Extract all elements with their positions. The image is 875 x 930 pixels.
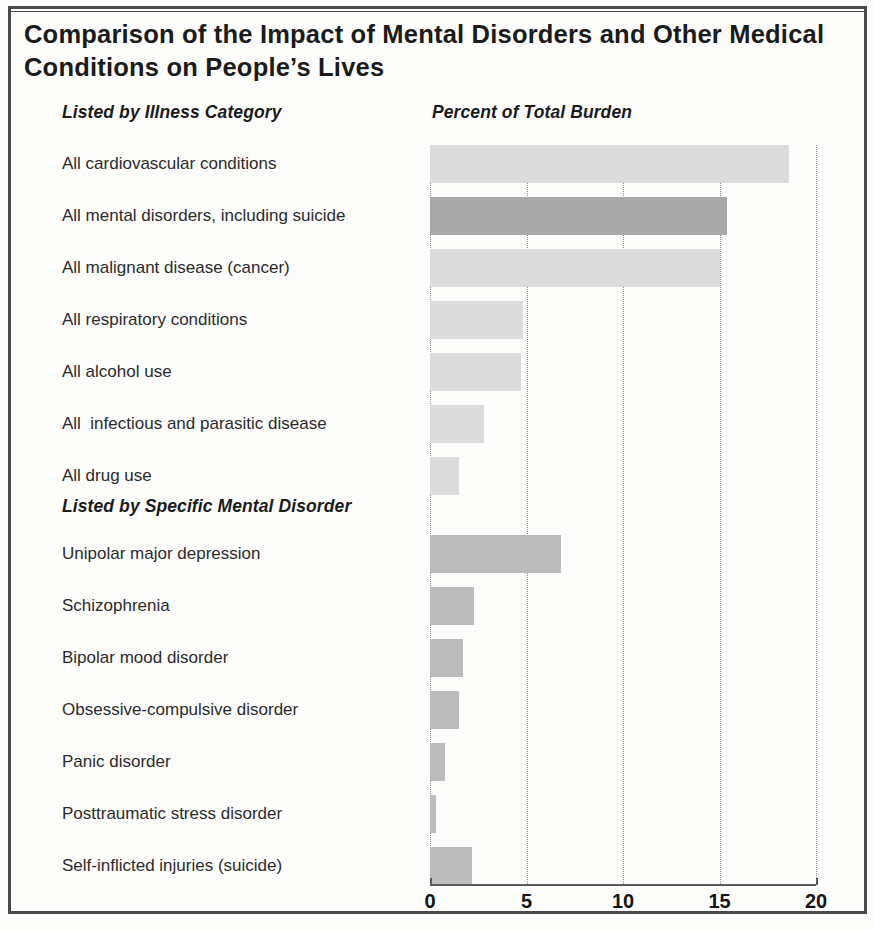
gridline-20 <box>816 145 818 884</box>
row-label: All malignant disease (cancer) <box>62 258 290 278</box>
bar <box>430 197 727 235</box>
bar <box>430 353 521 391</box>
row-label: Schizophrenia <box>62 596 170 616</box>
row-label: All cardiovascular conditions <box>62 154 277 174</box>
gridline-15 <box>720 145 722 884</box>
x-axis-line <box>430 884 816 886</box>
bar <box>430 587 474 625</box>
row-label: Panic disorder <box>62 752 171 772</box>
bar <box>430 535 561 573</box>
row-label: All drug use <box>62 466 152 486</box>
bar <box>430 249 720 287</box>
x-tick-label-0: 0 <box>424 890 435 913</box>
row-label: Obsessive-compulsive disorder <box>62 700 298 720</box>
x-tick-label-20: 20 <box>805 890 827 913</box>
bar <box>430 301 523 339</box>
x-tick-label-15: 15 <box>708 890 730 913</box>
bar <box>430 847 472 885</box>
x-tick-label-10: 10 <box>612 890 634 913</box>
bar <box>430 691 459 729</box>
bar <box>430 145 789 183</box>
bar <box>430 743 445 781</box>
row-label: All mental disorders, including suicide <box>62 206 345 226</box>
row-label: All alcohol use <box>62 362 172 382</box>
row-label: Self-inflicted injuries (suicide) <box>62 856 282 876</box>
row-label: All infectious and parasitic disease <box>62 414 327 434</box>
chart-figure: Comparison of the Impact of Mental Disor… <box>0 0 875 930</box>
axis-cap-start <box>430 878 432 885</box>
plot-area: All cardiovascular conditionsAll mental … <box>0 0 875 930</box>
bar <box>430 405 484 443</box>
bar <box>430 457 459 495</box>
bar <box>430 639 463 677</box>
axis-cap-end <box>816 878 818 885</box>
row-label: Bipolar mood disorder <box>62 648 228 668</box>
row-label: Unipolar major depression <box>62 544 260 564</box>
x-tick-label-5: 5 <box>521 890 532 913</box>
row-label: All respiratory conditions <box>62 310 247 330</box>
row-label: Posttraumatic stress disorder <box>62 804 282 824</box>
bar <box>430 795 436 833</box>
